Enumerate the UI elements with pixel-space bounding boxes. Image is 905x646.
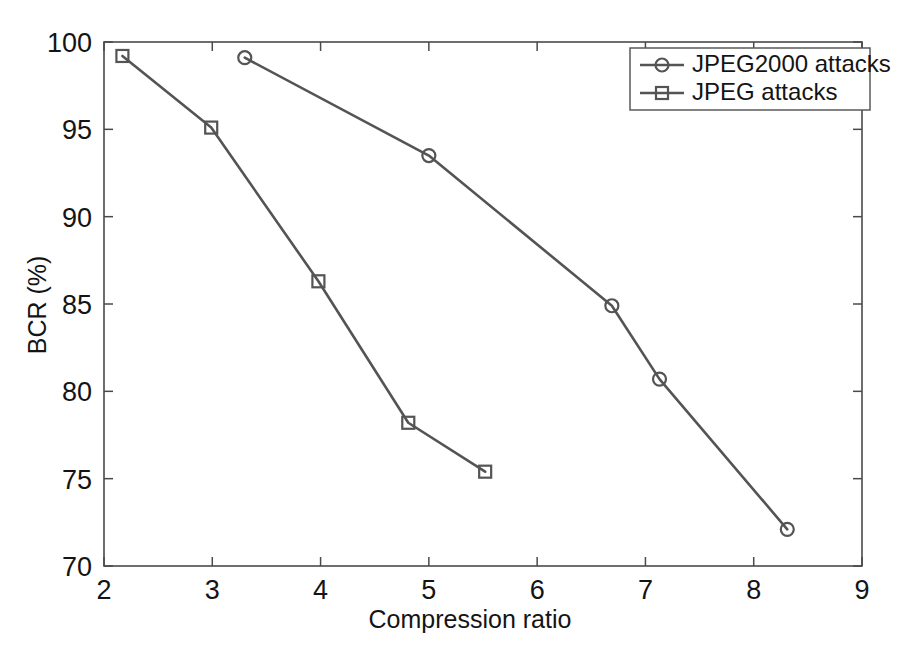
chart-legend: JPEG2000 attacksJPEG attacks — [630, 48, 891, 110]
legend-label: JPEG attacks — [692, 78, 837, 105]
y-tick-label: 80 — [62, 377, 92, 407]
y-tick-label: 90 — [62, 203, 92, 233]
x-axis-title: Compression ratio — [369, 605, 572, 633]
x-tick-label: 2 — [96, 575, 111, 605]
y-tick-label: 95 — [62, 115, 92, 145]
x-tick-label: 4 — [313, 575, 328, 605]
x-tick-label: 5 — [421, 575, 436, 605]
y-tick-label: 70 — [62, 552, 92, 582]
x-tick-label: 7 — [638, 575, 653, 605]
chart-container: 23456789 707580859095100 Compression rat… — [0, 0, 905, 646]
x-tick-label: 3 — [205, 575, 220, 605]
x-tick-label: 8 — [746, 575, 761, 605]
y-axis-tick-labels: 707580859095100 — [47, 28, 92, 582]
legend-label: JPEG2000 attacks — [692, 50, 891, 77]
y-axis-title: BCR (%) — [23, 256, 51, 355]
x-axis-tick-labels: 23456789 — [96, 575, 869, 605]
y-tick-label: 75 — [62, 465, 92, 495]
bcr-vs-compression-ratio-chart: 23456789 707580859095100 Compression rat… — [0, 0, 905, 646]
x-tick-label: 6 — [530, 575, 545, 605]
series-2 — [116, 50, 491, 478]
y-tick-label: 85 — [62, 290, 92, 320]
series-1 — [238, 51, 794, 536]
series-line-2 — [122, 56, 485, 472]
data-series-layer — [116, 50, 793, 536]
y-tick-label: 100 — [47, 28, 92, 58]
x-tick-label: 9 — [854, 575, 869, 605]
